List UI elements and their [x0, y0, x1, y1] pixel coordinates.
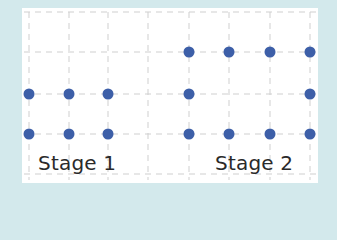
stage-1-dot: [24, 129, 35, 140]
stage-1-dot: [103, 129, 114, 140]
stage-2-dot: [305, 47, 316, 58]
stage-1-label: Stage 1: [38, 153, 116, 173]
stage-1-dot: [103, 89, 114, 100]
stage-2-label: Stage 2: [215, 153, 293, 173]
stage-2-dot: [184, 129, 195, 140]
stage-2-dot: [265, 47, 276, 58]
stage-1-dot: [64, 89, 75, 100]
stage-2-dot: [184, 89, 195, 100]
stage-2-dot: [265, 129, 276, 140]
stage-2-dot: [184, 47, 195, 58]
stage-2-dot: [224, 47, 235, 58]
stage-2-dot: [305, 129, 316, 140]
stage-1-dot: [64, 129, 75, 140]
stage-2-dot: [305, 89, 316, 100]
stage-2-dot: [224, 129, 235, 140]
stage-1-dot: [24, 89, 35, 100]
